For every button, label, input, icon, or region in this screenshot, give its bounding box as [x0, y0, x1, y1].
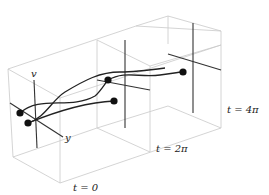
point-t0-b	[24, 119, 31, 126]
slice-label-t0: t = 0	[73, 182, 99, 193]
point-t4pi	[179, 68, 186, 75]
slice-axes	[10, 23, 221, 148]
phase-space-diagram: v y t = 0 t = 2π t = 4π	[0, 0, 269, 195]
v-axis-label: v	[31, 68, 37, 79]
slice-label-t2pi: t = 2π	[156, 143, 188, 154]
trajectories	[20, 68, 183, 123]
v-axis	[34, 80, 37, 148]
y-axis-label: y	[64, 132, 71, 143]
point-t0-a	[16, 109, 23, 116]
point-t2pi-a	[104, 76, 111, 83]
slice-label-t4pi: t = 4π	[227, 104, 259, 115]
point-t2pi-b	[110, 97, 117, 104]
